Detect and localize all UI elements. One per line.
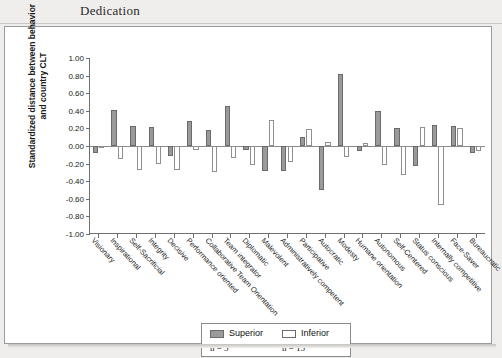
bar-sup-4: [168, 146, 173, 156]
y-axis-title-line1: Standardized distance between behavior: [27, 4, 37, 168]
bar-inf-4: [174, 146, 179, 170]
bar-inf-11: [306, 129, 311, 146]
y-tick-mark: [86, 58, 90, 59]
y-tick-label: 0.00: [68, 142, 84, 151]
bar-sup-19: [451, 126, 456, 146]
y-tick-mark: [86, 164, 90, 165]
legend-label-inferior: Inferior: [301, 328, 329, 338]
running-head: Dedication: [80, 3, 140, 19]
chart-plot-area: Standardized distance between behavior a…: [5, 27, 491, 343]
bar-sup-6: [206, 130, 211, 146]
chart-legend: Superior Inferior n = 5 n = 15: [201, 323, 351, 357]
header-divider: [0, 23, 502, 24]
y-tick-label: -0.20: [66, 159, 84, 168]
y-tick-label: -0.60: [66, 194, 84, 203]
bar-sup-14: [357, 146, 362, 151]
y-tick-label: -0.80: [66, 212, 84, 221]
bar-inf-0: [99, 146, 104, 148]
y-tick-label: 0.40: [68, 106, 84, 115]
bar-sup-11: [300, 137, 305, 146]
y-tick-label: 1.00: [68, 54, 84, 63]
bar-inf-13: [344, 146, 349, 157]
y-tick-mark: [86, 234, 90, 235]
legend-label-superior: Superior: [229, 328, 263, 338]
bar-inf-7: [231, 146, 236, 158]
legend-swatch-inferior: [282, 330, 296, 338]
bar-sup-5: [187, 121, 192, 146]
bar-sup-9: [262, 146, 267, 171]
bar-inf-6: [212, 146, 217, 172]
bar-sup-3: [149, 127, 154, 146]
bar-inf-15: [382, 146, 387, 165]
bar-inf-10: [288, 146, 293, 162]
y-tick-mark: [86, 93, 90, 94]
y-tick-label: -0.40: [66, 177, 84, 186]
y-tick-mark: [86, 199, 90, 200]
figure-card: Standardized distance between behavior a…: [4, 26, 492, 344]
bar-sup-8: [243, 146, 248, 150]
bar-sup-12: [319, 146, 324, 190]
bar-inf-20: [476, 146, 481, 151]
bar-sup-20: [470, 146, 475, 153]
y-axis-title-line2: and country CLT: [38, 53, 48, 120]
y-tick-mark: [86, 128, 90, 129]
y-tick-label: 0.20: [68, 124, 84, 133]
bar-inf-18: [438, 146, 443, 205]
bar-inf-5: [193, 146, 198, 150]
page-header: Dedication: [0, 0, 502, 24]
bar-sup-15: [375, 111, 380, 146]
bar-sup-13: [338, 74, 343, 146]
y-tick-mark: [86, 111, 90, 112]
bar-inf-12: [325, 142, 330, 146]
bar-sup-17: [413, 146, 418, 166]
axes: 1.000.800.600.400.200.00-0.20-0.40-0.60-…: [89, 58, 485, 234]
y-tick-mark: [86, 216, 90, 217]
bar-inf-2: [137, 146, 142, 170]
bar-inf-19: [457, 128, 462, 146]
bar-inf-14: [363, 143, 368, 146]
bar-inf-9: [269, 120, 274, 146]
y-tick-label: 0.80: [68, 71, 84, 80]
legend-row-labels: Superior Inferior: [202, 326, 350, 342]
y-tick-mark: [86, 146, 90, 147]
legend-swatch-superior: [210, 330, 224, 338]
bar-inf-8: [250, 146, 255, 165]
bar-sup-7: [225, 106, 230, 146]
bar-sup-18: [432, 125, 437, 146]
y-tick-mark: [86, 181, 90, 182]
y-tick-label: -1.00: [66, 230, 84, 239]
y-tick-mark: [86, 76, 90, 77]
bar-inf-17: [420, 127, 425, 146]
bar-inf-1: [118, 146, 123, 159]
bar-sup-10: [281, 146, 286, 171]
bar-sup-0: [93, 146, 98, 153]
bar-sup-2: [130, 126, 135, 146]
y-axis-title: Standardized distance between behavior a…: [27, 0, 49, 181]
bar-sup-16: [394, 128, 399, 146]
bar-sup-1: [111, 110, 116, 146]
figure-card-shadow: [8, 344, 496, 348]
bar-inf-16: [401, 146, 406, 175]
x-axis-labels: VisionaryInspirationalSelf-SacrificialIn…: [89, 236, 485, 320]
bar-inf-3: [156, 146, 161, 164]
y-tick-label: 0.60: [68, 89, 84, 98]
